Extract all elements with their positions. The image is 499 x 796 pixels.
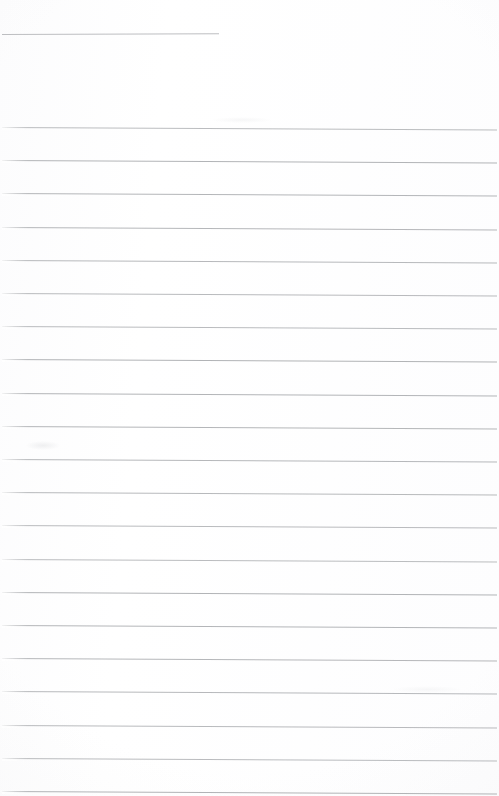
paper-texture bbox=[0, 0, 499, 796]
scan-smudge-lower bbox=[392, 686, 462, 693]
ruled-line bbox=[2, 459, 497, 463]
scan-smudge-mid bbox=[212, 117, 272, 123]
ruled-line bbox=[2, 293, 497, 297]
ruled-line bbox=[2, 625, 497, 629]
ruled-line bbox=[2, 691, 497, 695]
ruled-line bbox=[2, 559, 497, 563]
ruled-line bbox=[2, 492, 497, 496]
ruled-line bbox=[2, 260, 497, 264]
scanned-page bbox=[0, 0, 499, 796]
ruled-line bbox=[2, 725, 497, 729]
ruled-line bbox=[2, 127, 497, 131]
ruled-line bbox=[2, 426, 497, 430]
ruled-line bbox=[2, 160, 497, 164]
ruled-line bbox=[2, 227, 497, 231]
ruled-line bbox=[2, 525, 497, 529]
ruled-line bbox=[2, 658, 497, 662]
ruled-line bbox=[2, 359, 497, 363]
ruled-line bbox=[2, 193, 497, 197]
ruled-line bbox=[2, 393, 497, 397]
header-rule bbox=[2, 33, 219, 35]
ruled-line bbox=[2, 758, 497, 762]
ruled-line bbox=[2, 326, 497, 330]
ruled-line bbox=[2, 592, 497, 596]
scan-smudge-left bbox=[26, 441, 60, 450]
ruled-line bbox=[2, 791, 497, 795]
